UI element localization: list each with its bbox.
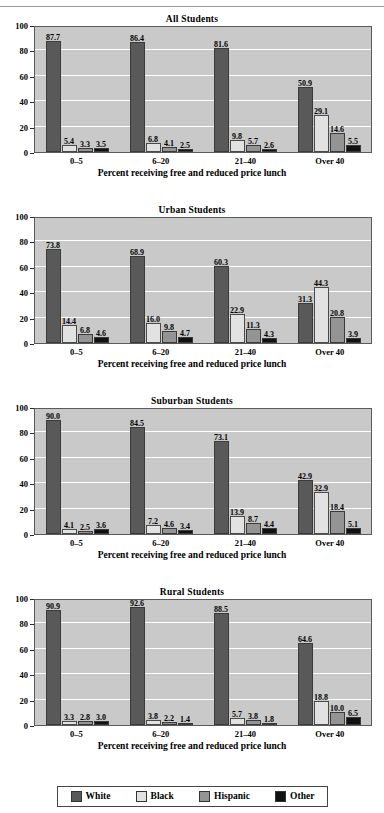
x-axis-tick-label: 21–40 (203, 729, 288, 739)
bar-white[interactable]: 87.7 (46, 41, 61, 152)
legend-item-black[interactable]: Black (136, 791, 174, 802)
bar-black[interactable]: 5.4 (62, 145, 77, 152)
bar-white[interactable]: 86.4 (130, 42, 145, 152)
bar-white[interactable]: 88.5 (214, 613, 229, 725)
bar-other[interactable]: 1.8 (262, 723, 277, 725)
bar-value-label: 16.0 (146, 315, 160, 324)
bar-other[interactable]: 2.5 (178, 149, 193, 152)
bar-other[interactable]: 4.3 (262, 338, 277, 343)
bar-value-label: 22.9 (230, 306, 244, 315)
bar-other[interactable]: 3.4 (178, 530, 193, 534)
chart-title: Urban Students (0, 205, 384, 216)
bar-black[interactable]: 44.3 (314, 287, 329, 343)
bar-white[interactable]: 92.6 (130, 607, 145, 725)
bar-hispanic[interactable]: 3.3 (78, 148, 93, 152)
bar-white[interactable]: 90.0 (46, 420, 61, 534)
bar-hispanic[interactable]: 2.2 (162, 722, 177, 725)
bar-black[interactable]: 4.1 (62, 529, 77, 534)
bar-white[interactable]: 68.9 (130, 256, 145, 344)
bar-other[interactable]: 3.5 (94, 148, 109, 152)
bar-hispanic[interactable]: 2.5 (78, 531, 93, 534)
legend-item-hispanic[interactable]: Hispanic (199, 791, 250, 802)
legend-item-white[interactable]: White (71, 791, 111, 802)
y-axis-tick-label: 40 (20, 98, 29, 107)
bar-white[interactable]: 73.1 (214, 441, 229, 534)
bar-black[interactable]: 22.9 (230, 314, 245, 343)
bar-value-label: 3.3 (80, 140, 90, 149)
bar-group: 84.57.24.63.4 (119, 409, 203, 534)
bar-value-label: 84.5 (130, 419, 144, 428)
bar-value-label: 42.9 (298, 472, 312, 481)
bar-value-label: 3.4 (180, 522, 190, 531)
bar-hispanic[interactable]: 4.1 (162, 147, 177, 152)
bar-other[interactable]: 4.6 (94, 337, 109, 343)
y-axis-tick (30, 408, 34, 409)
bar-white[interactable]: 84.5 (130, 427, 145, 534)
bar-black[interactable]: 16.0 (146, 323, 161, 343)
bar-hispanic[interactable]: 5.7 (246, 145, 261, 152)
bar-hispanic[interactable]: 6.8 (78, 334, 93, 343)
bar-other[interactable]: 3.0 (94, 721, 109, 725)
bar-black[interactable]: 3.8 (146, 720, 161, 725)
bar-black[interactable]: 14.4 (62, 325, 77, 343)
bar-value-label: 3.3 (64, 713, 74, 722)
y-axis-tick-label: 20 (20, 505, 29, 514)
bar-black[interactable]: 29.1 (314, 115, 329, 152)
bar-other[interactable]: 3.9 (346, 338, 361, 343)
bar-black[interactable]: 3.3 (62, 721, 77, 725)
y-axis-tick-label: 40 (20, 671, 29, 680)
bar-groups: 90.04.12.53.684.57.24.63.473.113.98.74.4… (35, 409, 371, 534)
bar-other[interactable]: 1.4 (178, 723, 193, 725)
bar-hispanic[interactable]: 20.8 (330, 317, 345, 343)
bar-other[interactable]: 6.5 (346, 717, 361, 725)
bar-white[interactable]: 60.3 (214, 266, 229, 343)
bar-white[interactable]: 64.6 (298, 643, 313, 725)
x-axis-tick-labels: 0–56–2021–40Over 40 (34, 347, 372, 357)
bar-group: 68.916.09.84.7 (119, 218, 203, 343)
bar-value-label: 64.6 (298, 635, 312, 644)
legend-item-other[interactable]: Other (275, 791, 314, 802)
bar-black[interactable]: 6.8 (146, 143, 161, 152)
bar-hispanic[interactable]: 9.8 (162, 331, 177, 343)
bar-white[interactable]: 42.9 (298, 480, 313, 534)
bar-value-label: 4.3 (264, 330, 274, 339)
bar-white[interactable]: 73.8 (46, 249, 61, 343)
bar-other[interactable]: 2.6 (262, 149, 277, 152)
y-axis-tick (30, 77, 34, 78)
bar-black[interactable]: 32.9 (314, 492, 329, 534)
plot-area: 87.75.43.33.586.46.84.12.581.69.85.72.65… (34, 26, 372, 153)
bar-value-label: 68.9 (130, 248, 144, 257)
bar-hispanic[interactable]: 3.8 (246, 720, 261, 725)
bar-other[interactable]: 5.5 (346, 145, 361, 152)
bar-black[interactable]: 7.2 (146, 525, 161, 534)
bar-hispanic[interactable]: 11.3 (246, 329, 261, 343)
bar-black[interactable]: 13.9 (230, 516, 245, 534)
bar-black[interactable]: 18.8 (314, 701, 329, 725)
bar-black[interactable]: 5.7 (230, 718, 245, 725)
x-axis-tick-label: 0–5 (34, 729, 119, 739)
bar-white[interactable]: 90.9 (46, 610, 61, 725)
bar-white[interactable]: 31.3 (298, 303, 313, 343)
bar-hispanic[interactable]: 10.0 (330, 712, 345, 725)
bar-value-label: 44.3 (314, 279, 328, 288)
bar-other[interactable]: 3.6 (94, 529, 109, 534)
bar-hispanic[interactable]: 2.8 (78, 721, 93, 725)
bar-hispanic[interactable]: 4.6 (162, 528, 177, 534)
bar-white[interactable]: 50.9 (298, 87, 313, 152)
y-axis-tick (30, 217, 34, 218)
bar-hispanic[interactable]: 18.4 (330, 511, 345, 534)
x-axis-tick-label: 0–5 (34, 156, 119, 166)
y-axis-tick-label: 80 (20, 620, 29, 629)
bar-value-label: 90.9 (46, 602, 60, 611)
bar-hispanic[interactable]: 8.7 (246, 523, 261, 534)
bar-groups: 73.814.46.84.668.916.09.84.760.322.911.3… (35, 218, 371, 343)
bar-other[interactable]: 5.1 (346, 528, 361, 534)
bar-other[interactable]: 4.7 (178, 337, 193, 343)
bar-white[interactable]: 81.6 (214, 48, 229, 152)
bar-other[interactable]: 4.4 (262, 528, 277, 534)
bar-hispanic[interactable]: 14.6 (330, 133, 345, 152)
bar-value-label: 4.6 (96, 329, 106, 338)
bar-black[interactable]: 9.8 (230, 140, 245, 152)
plot-area: 90.93.32.83.092.63.82.21.488.55.73.81.86… (34, 599, 372, 726)
bar-group: 73.113.98.74.4 (203, 409, 287, 534)
